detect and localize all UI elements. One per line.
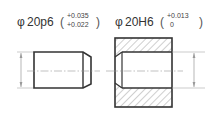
shaft-drawing bbox=[17, 52, 110, 88]
hatch-bottom bbox=[115, 88, 172, 107]
arrow-up-icon bbox=[20, 53, 23, 58]
arrow-up-icon bbox=[193, 53, 196, 58]
hatch-top bbox=[115, 38, 172, 52]
hole-drawing bbox=[110, 38, 205, 107]
fit-drawing bbox=[0, 0, 215, 116]
arrow-down-icon bbox=[20, 82, 23, 87]
arrow-down-icon bbox=[193, 82, 196, 87]
